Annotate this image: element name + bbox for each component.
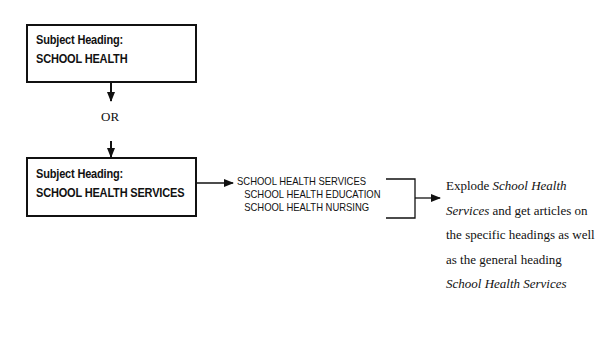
- or-label: OR: [101, 109, 119, 125]
- list-item: SCHOOL HEALTH SERVICES: [237, 175, 381, 188]
- explanation-part: Explode: [446, 178, 493, 193]
- list-item: SCHOOL HEALTH NURSING: [237, 201, 381, 214]
- box-heading: SCHOOL HEALTH: [36, 50, 176, 69]
- subject-heading-box-school-health-services: Subject Heading: SCHOOL HEALTH SERVICES: [26, 157, 197, 217]
- list-item: SCHOOL HEALTH EDUCATION: [237, 188, 381, 201]
- box-label: Subject Heading:: [36, 31, 176, 50]
- heading-list: SCHOOL HEALTH SERVICES SCHOOL HEALTH EDU…: [237, 175, 397, 214]
- box-heading: SCHOOL HEALTH SERVICES: [36, 184, 176, 203]
- explanation-text: Explode School Health Services and get a…: [446, 174, 596, 297]
- subject-heading-box-school-health: Subject Heading: SCHOOL HEALTH: [26, 24, 197, 83]
- box-label: Subject Heading:: [36, 165, 176, 184]
- explanation-italic: School Health Services: [446, 276, 567, 291]
